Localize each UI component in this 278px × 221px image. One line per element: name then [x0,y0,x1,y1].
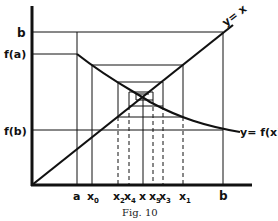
x-labels: a x 0 x 2 x 4 x x 5 x 3 x 1 b [73,189,228,205]
function-curve [77,54,240,132]
cobweb-diagram: y= x y= f(x) b f(a) f(b) a x 0 x 2 x 4 x… [0,0,278,221]
identity-label: y= x [220,2,250,29]
svg-text:3: 3 [166,197,171,205]
function-label: y= f(x) [240,126,278,139]
y-label-fa: f(a) [4,48,26,61]
x-label-a: a [73,190,80,203]
svg-text:0: 0 [94,197,99,205]
identity-line [32,25,233,185]
svg-text:4: 4 [131,197,136,205]
x-label-xstar: x [139,190,146,203]
svg-text:1: 1 [186,197,191,205]
y-label-b: b [17,26,26,40]
x-label-b: b [219,189,228,203]
figure-caption: Fig. 10 [122,207,158,218]
y-label-fb: f(b) [4,125,27,138]
